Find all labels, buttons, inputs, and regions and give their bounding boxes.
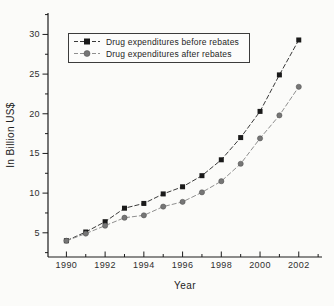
data-point-square	[161, 191, 166, 196]
data-point-square	[296, 37, 301, 42]
circle-marker-icon	[73, 49, 101, 58]
data-point-square	[199, 173, 204, 178]
x-tick-label: 2002	[288, 260, 310, 270]
data-point-circle	[296, 84, 301, 89]
data-point-circle	[103, 223, 108, 228]
y-tick-label: 30	[29, 29, 40, 39]
legend-label-after: Drug expenditures after rebates	[106, 49, 232, 59]
x-tick-label: 1998	[210, 260, 232, 270]
series-line-after	[66, 87, 298, 241]
x-tick-label: 2000	[249, 260, 271, 270]
y-tick-label: 25	[29, 69, 40, 79]
legend-circle-after	[84, 51, 90, 57]
data-point-circle	[161, 204, 166, 209]
y-tick-label: 15	[29, 148, 40, 158]
data-point-circle	[141, 213, 146, 218]
x-tick-label: 1996	[172, 260, 194, 270]
legend: Drug expenditures before rebates Drug ex…	[68, 33, 250, 63]
data-point-square	[180, 184, 185, 189]
data-point-circle	[257, 136, 262, 141]
legend-square-before	[84, 39, 90, 45]
data-point-circle	[277, 113, 282, 118]
y-tick-label: 20	[29, 109, 40, 119]
data-point-circle	[199, 190, 204, 195]
data-point-square	[277, 72, 282, 77]
data-point-circle	[219, 179, 224, 184]
x-tick-label: 1994	[133, 260, 155, 270]
x-axis-title: Year	[174, 280, 196, 291]
y-axis-title: In Billion US$	[5, 102, 16, 168]
square-marker-icon	[73, 37, 101, 46]
data-point-circle	[64, 238, 69, 243]
data-point-circle	[122, 215, 127, 220]
chart-figure: 510152025301990199219941996199820002002I…	[0, 0, 334, 306]
legend-label-before: Drug expenditures before rebates	[106, 37, 239, 47]
x-tick-label: 1990	[56, 260, 78, 270]
y-tick-label: 10	[29, 188, 40, 198]
data-point-square	[122, 206, 127, 211]
legend-item-before-rebates: Drug expenditures before rebates	[73, 36, 245, 47]
data-point-circle	[238, 161, 243, 166]
legend-item-after-rebates: Drug expenditures after rebates	[73, 48, 245, 59]
data-point-circle	[180, 199, 185, 204]
data-point-square	[238, 135, 243, 140]
data-point-square	[258, 109, 263, 114]
data-point-square	[141, 201, 146, 206]
x-tick-label: 1992	[94, 260, 116, 270]
data-point-circle	[83, 231, 88, 236]
y-tick-label: 5	[35, 228, 40, 238]
data-point-square	[219, 157, 224, 162]
series-line-before	[66, 40, 298, 241]
